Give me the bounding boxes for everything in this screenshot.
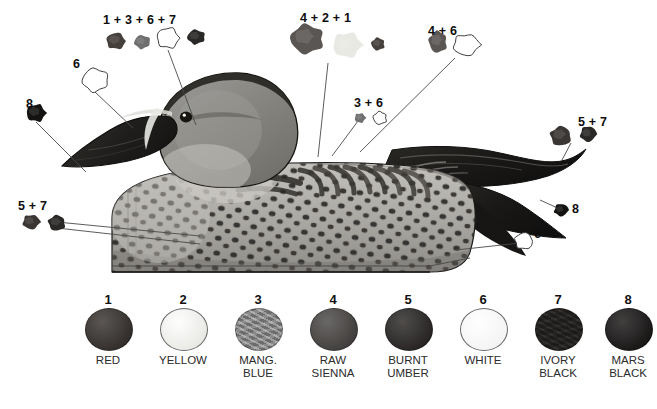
paint-blob-6	[514, 233, 532, 249]
legend-number-7: 7	[535, 293, 581, 306]
legend-name-2: YELLOW	[146, 354, 220, 367]
callout-label-c6: 4 + 6	[428, 25, 457, 38]
callout-label-c7: 5 + 7	[18, 200, 47, 213]
paint-blob-6	[82, 68, 108, 93]
leader-line-c8	[562, 143, 571, 160]
callout-label-c4: 4 + 2 + 1	[300, 12, 351, 25]
legend-number-4: 4	[310, 293, 356, 306]
legend-number-1: 1	[85, 293, 131, 306]
legend-swatch-4[interactable]	[310, 308, 358, 351]
legend-name-5: BURNT UMBER	[371, 354, 445, 379]
callout-label-c1: 1 + 3 + 6 + 7	[103, 14, 176, 27]
paint-blob-6	[373, 111, 387, 124]
callout-label-c2: 6	[73, 58, 80, 71]
legend-swatch-3[interactable]	[235, 308, 283, 351]
legend-swatch-2[interactable]	[160, 308, 208, 351]
legend-number-2: 2	[160, 293, 206, 306]
legend-name-7: IVORY BLACK	[521, 354, 595, 379]
eye	[180, 112, 192, 123]
legend-swatch-7[interactable]	[535, 308, 583, 351]
leader-line-c2	[95, 92, 133, 128]
callout-label-c3: 8	[26, 98, 33, 111]
callout-label-c5: 3 + 6	[354, 97, 383, 110]
legend-swatch-1[interactable]	[85, 308, 133, 351]
legend-number-3: 3	[235, 293, 281, 306]
legend-number-8: 8	[605, 293, 651, 306]
paint-blob-6	[157, 28, 180, 49]
leader-line-c4	[318, 63, 328, 157]
callout-label-c10: 6	[534, 228, 541, 241]
legend-swatch-5[interactable]	[385, 308, 433, 351]
bill	[62, 116, 177, 167]
paint-blob-6	[453, 35, 481, 56]
legend-name-1: RED	[71, 354, 145, 367]
legend-name-6: WHITE	[446, 354, 520, 367]
legend-name-8: MARS BLACK	[591, 354, 657, 379]
legend-name-3: MANG. BLUE	[221, 354, 295, 379]
legend-number-5: 5	[385, 293, 431, 306]
callout-label-c9: 8	[572, 203, 579, 216]
callout-label-c8: 5 + 7	[578, 116, 607, 129]
legend-name-4: RAW SIENNA	[296, 354, 370, 379]
leader-line-c5	[332, 121, 358, 156]
legend-swatch-8[interactable]	[605, 308, 653, 351]
legend-swatch-6[interactable]	[460, 308, 508, 351]
legend-number-6: 6	[460, 293, 506, 306]
leader-line-c3	[36, 122, 86, 172]
